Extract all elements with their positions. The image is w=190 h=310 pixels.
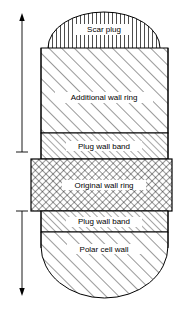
- upper-dimension-arrowhead-icon: [19, 13, 24, 21]
- region-label-additional-wall-ring: Additional wall ring: [71, 93, 138, 102]
- diagram-root: Scar plug Additional wall ring Plug wall…: [0, 0, 190, 310]
- additional-wall-ring-body: [41, 48, 168, 133]
- region-additional-wall-ring: Additional wall ring: [41, 48, 168, 133]
- region-original-wall-ring: Original wall ring: [31, 159, 172, 211]
- lower-dimension-arrow: [16, 211, 28, 296]
- region-label-scar-plug: Scar plug: [87, 25, 121, 34]
- region-label-plug-wall-band-upper: Plug wall band: [78, 142, 130, 151]
- wall-structure-diagram: Scar plug Additional wall ring Plug wall…: [0, 0, 190, 310]
- region-scar-plug: Scar plug: [48, 12, 160, 48]
- upper-dimension-arrow: [16, 13, 28, 152]
- polar-cell-wall-body: [41, 232, 168, 298]
- lower-dimension-arrowhead-icon: [19, 288, 24, 296]
- region-label-original-wall-ring: Original wall ring: [74, 181, 133, 190]
- region-plug-wall-band-upper: Plug wall band: [41, 133, 168, 159]
- region-label-polar-cell-wall: Polar cell wall: [80, 245, 129, 254]
- region-label-plug-wall-band-lower: Plug wall band: [78, 217, 130, 226]
- region-plug-wall-band-lower: Plug wall band: [41, 211, 168, 232]
- region-polar-cell-wall: Polar cell wall: [41, 232, 168, 298]
